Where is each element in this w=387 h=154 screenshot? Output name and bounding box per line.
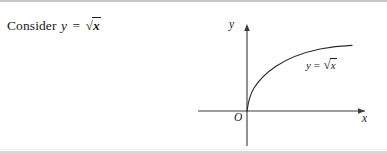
x-axis-label: x — [362, 112, 367, 124]
graph-figure: y x O y = √x — [193, 0, 387, 154]
sqrt-curve — [247, 45, 352, 111]
prose-statement: Consider y = √x — [7, 17, 101, 34]
curve-radical-expression: √x — [323, 57, 337, 73]
figure-page: Consider y = √x y x O y = — [0, 0, 387, 154]
bottom-divider-light — [0, 149, 387, 150]
curve-label-relation: = — [314, 59, 320, 71]
prose-radicand: x — [92, 17, 101, 34]
prose-equation-relation: = — [72, 18, 82, 33]
graph-svg — [193, 0, 387, 154]
curve-label-lhs: y — [306, 59, 311, 71]
y-axis-arrow-icon — [244, 24, 250, 31]
prose-lead-text: Consider — [7, 18, 57, 33]
y-axis — [244, 24, 250, 146]
x-axis — [198, 108, 365, 114]
y-axis-label: y — [229, 18, 234, 30]
curve-radicand: x — [330, 58, 337, 71]
origin-label: O — [234, 111, 242, 123]
prose-equation-lhs: y — [60, 18, 68, 33]
bottom-divider — [0, 151, 387, 154]
prose-radical-expression: √x — [85, 17, 101, 34]
curve-equation-label: y = √x — [306, 57, 337, 73]
